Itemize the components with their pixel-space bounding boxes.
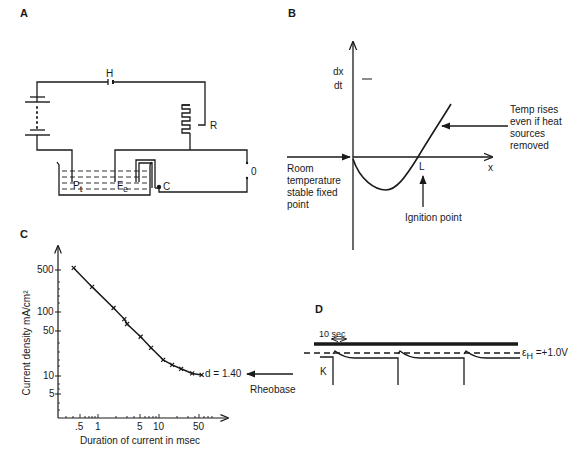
c-ytick-5: 5	[49, 388, 55, 400]
c-data-point	[90, 285, 94, 289]
label-c-junction: C	[163, 181, 170, 193]
label-r: R	[210, 120, 217, 132]
c-xtick-10: 10	[153, 421, 164, 433]
eh-value: =+1.0V	[533, 347, 568, 358]
c-xtick-5: 5	[137, 421, 143, 433]
fe-sub: e	[123, 184, 128, 194]
c-data-line	[74, 268, 202, 375]
b-curve	[353, 104, 451, 190]
c-data-point	[112, 306, 116, 310]
c-xtick-1: 1	[95, 421, 101, 433]
c-ytick-100: 100	[37, 306, 54, 318]
c-ytick-10: 10	[43, 370, 54, 382]
annot-ignition: Ignition point	[405, 212, 462, 224]
b-y-label-num: dx	[333, 66, 344, 78]
b-l-label: L	[419, 161, 425, 173]
annot-d-value: d = 1.40	[205, 368, 241, 380]
circuit-diagram	[25, 79, 247, 195]
b-x-label: x	[488, 162, 493, 174]
c-ytick-500: 500	[37, 264, 54, 276]
potential-trace	[304, 339, 520, 385]
c-xtick-50: 50	[193, 421, 204, 433]
label-switch-0: 0	[251, 166, 257, 178]
c-xtick-05: .5	[75, 421, 83, 433]
annot-rheobase: Rheobase	[250, 384, 296, 396]
c-ytick-50: 50	[43, 325, 54, 337]
phase-plot	[287, 42, 508, 250]
b-y-label-den: dt	[334, 80, 342, 92]
c-data-point	[149, 346, 153, 350]
junction-c-dot	[157, 185, 161, 189]
label-fe: Fe	[117, 180, 128, 195]
d-eh-label: εH =+1.0V	[522, 347, 568, 362]
trace-line	[320, 351, 520, 385]
label-pt: Pt	[73, 180, 82, 195]
pt-main: P	[73, 180, 80, 191]
c-x-axis-label: Duration of current in msec	[80, 435, 200, 447]
d-k-label: K	[320, 366, 327, 378]
d-scale-label: 10 sec	[319, 328, 346, 340]
pt-sub: t	[80, 184, 83, 194]
annot-room-temp: Room temperature stable fixed point	[287, 163, 341, 211]
c-data-point	[139, 335, 143, 339]
label-h: H	[106, 68, 113, 80]
c-data-point	[72, 266, 76, 270]
annot-temp-rises: Temp rises even if heat sources removed	[510, 104, 562, 152]
c-y-axis-label: Current density mA/cm²	[21, 288, 33, 398]
